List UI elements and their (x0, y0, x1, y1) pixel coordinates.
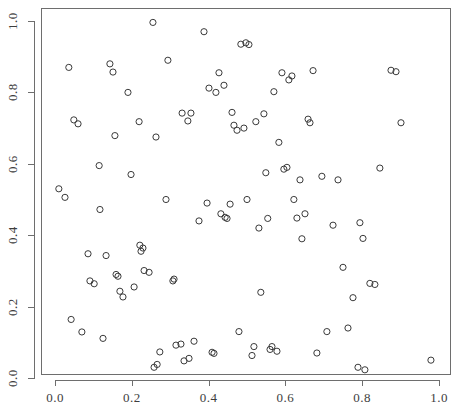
y-tick-mark (28, 21, 34, 22)
y-tick-mark (28, 378, 34, 379)
x-tick-label: 0.4 (189, 390, 229, 406)
y-tick-label: 0.4 (5, 222, 21, 248)
y-tick-label: 0.2 (5, 294, 21, 320)
x-axis-line (55, 380, 440, 381)
x-tick-mark (285, 380, 286, 386)
x-tick-mark (55, 380, 56, 386)
x-tick-mark (132, 380, 133, 386)
x-tick-label: 0.2 (112, 390, 152, 406)
x-tick-label: 0.0 (35, 390, 75, 406)
x-tick-label: 1.0 (419, 390, 459, 406)
x-tick-mark (209, 380, 210, 386)
scatter-plot-figure: 0.00.20.40.60.81.0 0.00.20.40.60.81.0 (0, 0, 462, 420)
x-tick-mark (439, 380, 440, 386)
x-tick-label: 0.8 (342, 390, 382, 406)
y-tick-mark (28, 164, 34, 165)
y-tick-label: 0.0 (5, 365, 21, 391)
y-tick-label: 0.6 (5, 151, 21, 177)
y-tick-mark (28, 92, 34, 93)
y-tick-label: 1.0 (5, 8, 21, 34)
x-tick-label: 0.6 (265, 390, 305, 406)
y-tick-mark (28, 307, 34, 308)
y-tick-label: 0.8 (5, 79, 21, 105)
plot-area-border (41, 8, 451, 375)
x-tick-mark (362, 380, 363, 386)
y-axis-line (34, 21, 35, 379)
y-tick-mark (28, 235, 34, 236)
